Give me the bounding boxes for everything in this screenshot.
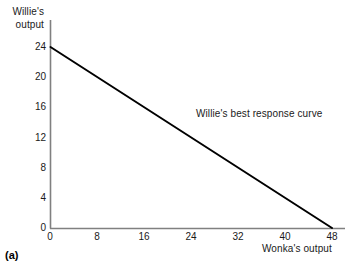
x-tick-label: 0 xyxy=(36,232,64,242)
figure-panel-a: Willie's output 24 20 16 12 8 4 0 Willie… xyxy=(0,0,357,269)
x-tick-label: 40 xyxy=(271,232,299,242)
x-tick-label: 32 xyxy=(224,232,252,242)
x-tick-label: 48 xyxy=(318,232,346,242)
x-tick-label: 16 xyxy=(130,232,158,242)
series-annotation-willies-best-response-curve: Willie's best response curve xyxy=(196,108,322,119)
x-tick-label: 24 xyxy=(177,232,205,242)
willies-best-response-curve xyxy=(51,47,333,228)
x-tick-label: 8 xyxy=(83,232,111,242)
x-axis-title: Wonka's output xyxy=(262,243,332,255)
plot-area xyxy=(0,0,357,269)
panel-caption: (a) xyxy=(5,249,18,261)
